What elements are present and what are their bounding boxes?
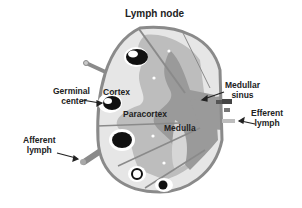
lymph-node-diagram: [0, 0, 302, 208]
label-cortex: Cortex: [103, 88, 130, 98]
label-paracortex: Paracortex: [123, 110, 167, 120]
label-afferent-lymph: Afferent lymph: [23, 136, 56, 155]
label-medullar-sinus: Medullar sinus: [225, 81, 260, 100]
label-medulla: Medulla: [164, 124, 196, 134]
label-efferent-lymph: Efferent lymph: [251, 109, 283, 128]
diagram-title: Lymph node: [125, 8, 184, 19]
label-germinal-center: Germinal center: [53, 87, 90, 106]
